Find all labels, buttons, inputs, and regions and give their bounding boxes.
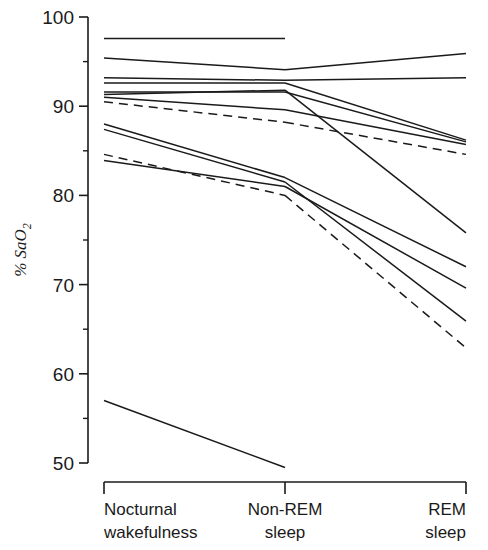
data-line-segment (285, 78, 466, 81)
data-line-segment (285, 110, 466, 145)
x-axis-category-label-line1: Non-REM (248, 500, 323, 519)
x-axis-category-label-line1: REM (428, 500, 466, 519)
data-line-segment (285, 178, 466, 267)
y-axis-title: % SaO2 (11, 223, 34, 277)
y-axis-tick-label: 80 (53, 185, 74, 206)
data-line-segment (285, 182, 466, 321)
y-axis-tick-label: 50 (53, 453, 74, 474)
data-line-segment (285, 54, 466, 70)
data-line-segment (104, 401, 285, 468)
data-line-segment (104, 78, 285, 81)
y-axis-title-subscript: 2 (20, 223, 34, 229)
y-axis-tick-label: 60 (53, 364, 74, 385)
saturation-line-chart-figure: 1009080706050% SaO2NocturnalwakefulnessN… (0, 0, 488, 550)
chart-canvas: 1009080706050% SaO2NocturnalwakefulnessN… (0, 0, 488, 550)
y-axis-tick-label: 100 (42, 7, 74, 28)
data-line-segment (104, 97, 285, 109)
y-axis-tick-label: 70 (53, 275, 74, 296)
data-line-segment (285, 186, 466, 288)
x-axis-category-label-line2: wakefulness (103, 523, 198, 542)
data-line-segment (104, 102, 285, 123)
data-line-segment (104, 124, 285, 178)
x-axis-category-label-line2: sleep (265, 523, 306, 542)
y-axis-tick-label: 90 (53, 96, 74, 117)
data-line-segment (285, 92, 466, 142)
data-line-segment (285, 195, 466, 348)
data-line-segment (104, 58, 285, 70)
x-axis-category-label-line1: Nocturnal (104, 500, 177, 519)
x-axis-category-label-line2: sleep (425, 523, 466, 542)
y-axis-title-text: % SaO2 (11, 223, 34, 277)
